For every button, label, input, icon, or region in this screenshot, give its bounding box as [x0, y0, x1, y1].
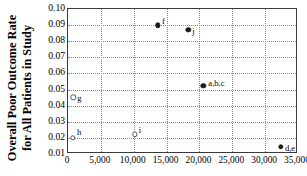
y-tick-label: 0.03	[38, 116, 65, 126]
y-tick-label: 0.05	[38, 84, 65, 94]
y-tick-label: 0.04	[38, 100, 65, 110]
gridline-horizontal	[68, 57, 296, 58]
plot-area: fja,b,cghid,e	[67, 8, 297, 153]
x-tick-label: 35,000	[284, 155, 307, 166]
data-point-label-abc: a,b,c	[208, 79, 224, 88]
y-tick-label: 0.02	[38, 132, 65, 142]
y-axis-tick-labels: 0.010.020.030.040.050.060.070.080.090.10	[36, 8, 65, 153]
y-tick-label: 0.01	[38, 148, 65, 158]
gridline-vertical	[167, 9, 168, 152]
gridline-vertical	[199, 9, 200, 152]
gridline-vertical	[232, 9, 233, 152]
y-tick-label: 0.08	[38, 35, 65, 45]
plot-inner: fja,b,cghid,e	[68, 9, 296, 152]
y-axis-title-line2: for All Patients in Study	[19, 15, 34, 161]
gridline-vertical	[101, 9, 102, 152]
y-tick-label: 0.07	[38, 51, 65, 61]
data-point-i	[132, 132, 137, 137]
y-tick-label: 0.10	[38, 3, 65, 13]
data-point-h	[70, 135, 75, 140]
x-tick-label: 15,000	[153, 155, 179, 166]
gridline-horizontal	[68, 41, 296, 42]
scatter-chart-figure: Overall Poor Outcome Rate for All Patien…	[0, 0, 307, 176]
gridline-vertical	[265, 9, 266, 152]
y-axis-title-line1: Overall Poor Outcome Rate	[5, 15, 20, 161]
x-tick-label: 5,000	[89, 155, 110, 166]
data-point-j	[186, 27, 191, 32]
gridline-vertical	[134, 9, 135, 152]
x-axis-tick-labels: 05,00010,00015,00020,00025,00030,00035,0…	[67, 155, 297, 171]
data-point-label-i: i	[139, 126, 141, 135]
gridline-horizontal	[68, 25, 296, 26]
data-point-label-j: j	[192, 27, 194, 36]
data-point-g	[71, 95, 76, 100]
y-tick-label: 0.09	[38, 19, 65, 29]
data-point-f	[155, 22, 160, 27]
gridline-horizontal	[68, 122, 296, 123]
data-point-abc	[201, 83, 206, 88]
x-tick-label: 10,000	[120, 155, 146, 166]
gridline-horizontal	[68, 106, 296, 107]
data-point-label-g: g	[77, 94, 81, 103]
x-tick-label: 30,000	[251, 155, 277, 166]
data-point-label-h: h	[77, 128, 81, 137]
gridline-horizontal	[68, 90, 296, 91]
x-tick-label: 20,000	[186, 155, 212, 166]
data-point-de	[278, 144, 283, 149]
gridline-horizontal	[68, 138, 296, 139]
y-axis-title: Overall Poor Outcome Rate for All Patien…	[0, 0, 38, 176]
x-tick-label: 25,000	[218, 155, 244, 166]
x-tick-label: 0	[65, 155, 70, 166]
data-point-label-f: f	[162, 17, 165, 26]
y-tick-label: 0.06	[38, 67, 65, 77]
gridline-horizontal	[68, 73, 296, 74]
data-point-label-de: d,e	[285, 144, 295, 153]
